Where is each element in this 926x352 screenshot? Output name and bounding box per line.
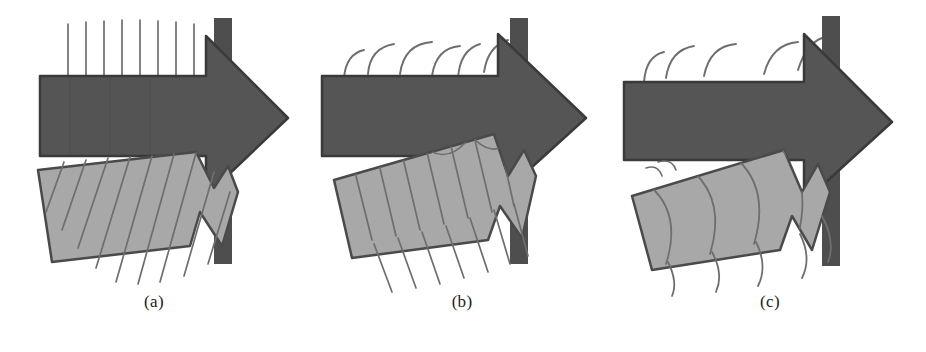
panel-a-drawing [0, 0, 308, 300]
panel-c: (c) [616, 0, 924, 352]
panel-a: (a) [0, 0, 308, 352]
edge-wavefronts-c [646, 161, 676, 176]
panel-b-caption: (b) [308, 292, 616, 312]
incident-wavefronts-a [68, 20, 194, 80]
panel-a-caption: (a) [0, 292, 308, 312]
incident-wavefronts-b [344, 40, 508, 78]
panel-b: (b) [308, 0, 616, 352]
panel-c-caption: (c) [616, 292, 924, 312]
panel-c-drawing [616, 0, 924, 300]
light-tilted-arrow-c [632, 150, 830, 270]
incident-wavefronts-c [644, 38, 822, 82]
panel-b-drawing [308, 0, 616, 300]
figure-three-panel-diagram: (a) [0, 0, 926, 352]
